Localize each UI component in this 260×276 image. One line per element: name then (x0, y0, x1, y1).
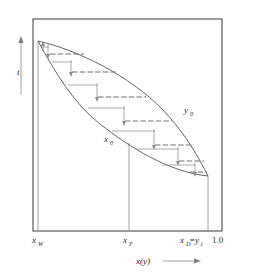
up-arrow-icon (18, 36, 23, 43)
x-tick-xd: x D =y 1 (179, 235, 203, 247)
x-axis-label: x(y) (135, 256, 150, 266)
curve-label-y0-group: y 0 (183, 105, 194, 117)
x-tick-xw-label: x (31, 235, 36, 245)
plot-canvas: t (0, 0, 260, 276)
y-axis-label: t (17, 67, 20, 77)
x-tick-xw-subscript: W (38, 240, 44, 247)
curve-label-x0-subscript: 0 (110, 139, 114, 146)
x-tick-xf-subscript: F (128, 240, 133, 247)
down-arrow-icon-4 (122, 121, 126, 126)
x-tick-xd-y-subscript: 1 (200, 240, 203, 247)
curve-label-x0-group: x 0 (103, 134, 114, 146)
lower-curve-x0 (38, 41, 208, 176)
curve-label-y0-subscript: 0 (190, 110, 194, 117)
distillation-figure: t (0, 0, 260, 276)
x-tick-xd-label: x (179, 235, 184, 245)
curve-label-y0: y (183, 105, 188, 115)
x-tick-one: 1.0 (212, 235, 224, 245)
plot-frame (33, 19, 222, 231)
y-axis-group: t (17, 36, 24, 95)
x-tick-xw: x W (31, 235, 44, 247)
staircase-construction (41, 41, 207, 177)
x-tick-xd-equals-y: =y (189, 235, 199, 245)
down-arrow-icon-2 (69, 72, 73, 77)
x-tick-xf: x F (122, 235, 133, 247)
x-tick-xf-label: x (122, 235, 127, 245)
down-arrow-icon-3 (95, 97, 99, 102)
curve-label-x0: x (103, 134, 108, 144)
right-arrow-icon (194, 259, 201, 264)
x-axis-title-group: x(y) (135, 256, 201, 266)
x-tick-one-label: 1.0 (212, 235, 224, 245)
upper-curve-y0 (38, 41, 208, 176)
